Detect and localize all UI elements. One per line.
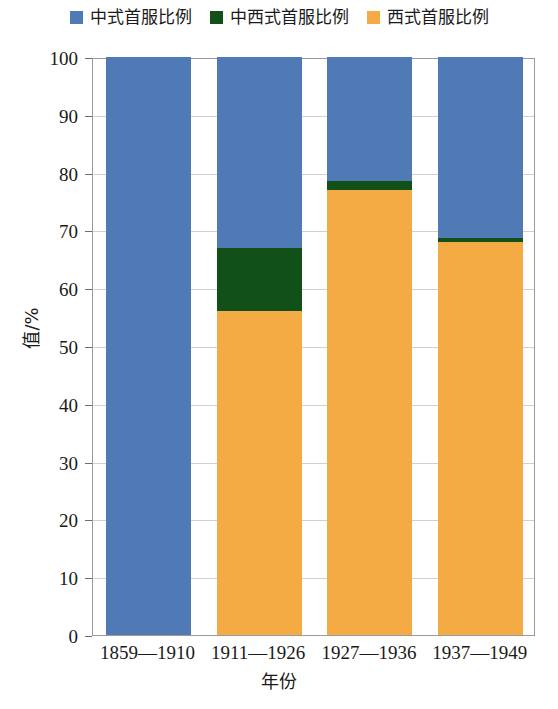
- legend-item[interactable]: 中西式首服比例: [210, 8, 349, 27]
- bar-segment[interactable]: [106, 57, 191, 635]
- legend-item[interactable]: 西式首服比例: [367, 8, 489, 27]
- y-axis-tick: [85, 174, 92, 175]
- x-axis-tick-labels: 1859—19101911—19261927—19361937—1949: [92, 642, 535, 670]
- y-axis-tick-label: 80: [8, 165, 78, 184]
- y-axis-tick: [85, 231, 92, 232]
- y-axis-tick-label: 0: [8, 627, 78, 646]
- bar-segment[interactable]: [217, 311, 302, 635]
- legend-swatch-icon: [70, 11, 83, 24]
- y-axis-tick: [85, 520, 92, 521]
- y-axis-tick-label: 20: [8, 511, 78, 530]
- legend-swatch-icon: [367, 11, 380, 24]
- y-axis-tick: [85, 289, 92, 290]
- bar-segment[interactable]: [217, 57, 302, 248]
- x-axis-tick-label: 1937—1949: [432, 642, 527, 664]
- y-axis-tick-label: 10: [8, 569, 78, 588]
- bar-stack[interactable]: [438, 57, 523, 635]
- y-axis-tick: [85, 347, 92, 348]
- x-axis-tick-label: 1911—1926: [211, 642, 305, 664]
- bar-segment[interactable]: [327, 190, 412, 635]
- legend-item[interactable]: 中式首服比例: [70, 8, 192, 27]
- y-axis-tick: [85, 58, 92, 59]
- y-axis-tick: [85, 636, 92, 637]
- y-axis-tick-label: 40: [8, 396, 78, 415]
- y-axis-tick: [85, 463, 92, 464]
- bar-segment[interactable]: [438, 242, 523, 635]
- chart-legend: 中式首服比例中西式首服比例西式首服比例: [0, 8, 558, 27]
- bar-stack[interactable]: [106, 57, 191, 635]
- bar-stack[interactable]: [217, 57, 302, 635]
- y-axis-tick-label: 50: [8, 338, 78, 357]
- y-axis-tick: [85, 578, 92, 579]
- bar-segment[interactable]: [217, 248, 302, 312]
- y-axis-tick-label: 70: [8, 222, 78, 241]
- legend-item-label: 中式首服比例: [90, 8, 192, 27]
- y-axis-tick: [85, 116, 92, 117]
- y-axis-title: 值/%: [22, 268, 42, 388]
- y-axis-tick-label: 90: [8, 107, 78, 126]
- x-axis-title: 年份: [0, 672, 558, 692]
- y-axis-tick-label: 30: [8, 454, 78, 473]
- bar-stack[interactable]: [327, 57, 412, 635]
- chart-root: 中式首服比例中西式首服比例西式首服比例 10090807060504030201…: [0, 0, 558, 709]
- legend-swatch-icon: [210, 11, 223, 24]
- bar-segment[interactable]: [327, 57, 412, 181]
- x-axis-tick-label: 1859—1910: [100, 642, 195, 664]
- x-axis-tick-label: 1927—1936: [321, 642, 416, 664]
- legend-item-label: 中西式首服比例: [230, 8, 349, 27]
- y-axis-tick: [85, 405, 92, 406]
- bar-segment[interactable]: [438, 57, 523, 238]
- plot-area: [92, 58, 535, 636]
- y-axis-tick-label: 100: [8, 49, 78, 68]
- y-axis-tick-label: 60: [8, 280, 78, 299]
- bar-segment[interactable]: [327, 181, 412, 190]
- legend-item-label: 西式首服比例: [387, 8, 489, 27]
